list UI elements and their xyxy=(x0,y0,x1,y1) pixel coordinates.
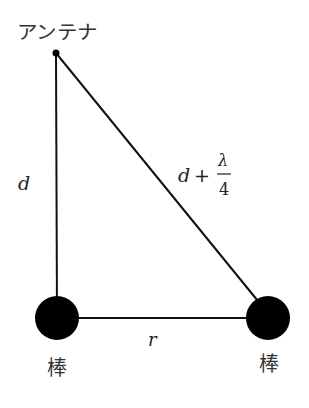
hypotenuse-plus: + xyxy=(194,164,210,186)
antenna-label: アンテナ xyxy=(17,21,98,43)
hypotenuse-lambda: λ xyxy=(217,151,228,170)
antenna-rod-diagram: アンテナ d d + λ 4 r 棒 棒 xyxy=(0,0,309,408)
edge-hypotenuse xyxy=(56,53,262,306)
rod-right-node xyxy=(246,296,290,340)
hypotenuse-label: d + λ 4 xyxy=(178,151,231,199)
rod-left-label: 棒 xyxy=(47,356,67,380)
horizontal-distance-label: r xyxy=(148,329,158,350)
hypotenuse-d: d xyxy=(178,164,190,186)
antenna-point xyxy=(53,50,60,57)
edge-vertical-d xyxy=(56,53,57,318)
rod-right-label: 棒 xyxy=(259,352,279,376)
rod-left-node xyxy=(35,296,79,340)
vertical-distance-label: d xyxy=(18,172,30,194)
hypotenuse-denominator: 4 xyxy=(219,180,229,199)
